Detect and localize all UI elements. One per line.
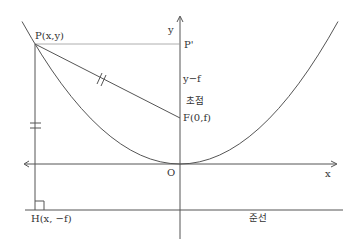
parabola-diagram: P(x,y) P' y y−f 초점 F(0,f) O x H(x, −f) 준…	[0, 0, 358, 239]
point-f-label: F(0,f)	[183, 112, 211, 123]
point-h-label: H(x, −f)	[31, 213, 72, 224]
y-axis	[177, 16, 183, 239]
point-p-prime-label: P'	[184, 39, 193, 50]
focus-korean-label: 초점	[186, 95, 204, 106]
y-axis-label: y	[167, 24, 174, 35]
right-angle-icon	[35, 201, 44, 210]
y-minus-f-label: y−f	[182, 73, 202, 84]
x-axis-label: x	[325, 168, 331, 179]
directrix-korean-label: 준선	[249, 212, 267, 223]
segment-p-f	[35, 44, 180, 118]
origin-label: O	[167, 167, 175, 178]
point-p-label: P(x,y)	[35, 30, 64, 41]
